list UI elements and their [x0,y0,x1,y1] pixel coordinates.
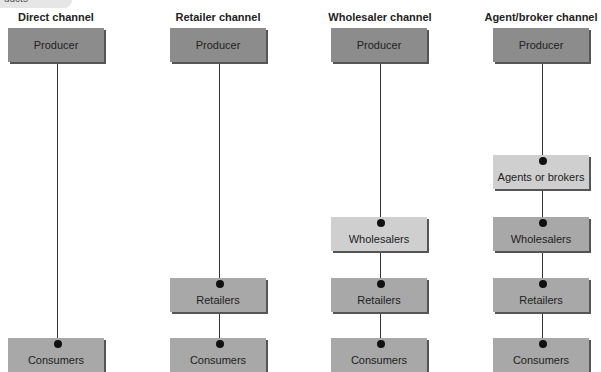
agent-producer-box: Producer [493,28,589,62]
node-dot [377,340,385,348]
direct-channel-title: Direct channel [0,11,116,23]
agent-channel-title: Agent/broker channel [481,11,601,23]
node-dot [216,340,224,348]
wholesaler-producer-box: Producer [331,28,427,62]
node-dot [54,340,62,348]
connector-line [57,62,58,344]
node-dot [377,280,385,288]
section-tag: ducts [0,0,72,8]
retailer-producer-box: Producer [170,28,266,62]
node-dot [377,219,385,227]
retailer-channel-title: Retailer channel [158,11,278,23]
node-dot [539,157,547,165]
node-dot [539,340,547,348]
direct-producer-box: Producer [8,28,104,62]
node-dot [216,280,224,288]
wholesaler-channel-title: Wholesaler channel [320,11,440,23]
node-dot [539,280,547,288]
node-dot [539,219,547,227]
